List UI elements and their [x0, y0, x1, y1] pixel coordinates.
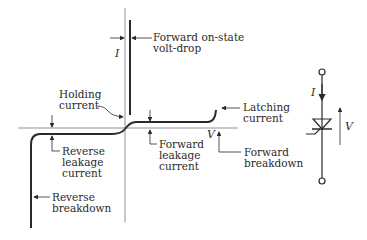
label-line: current [243, 113, 290, 124]
reverse-leakage-leader [52, 147, 60, 151]
reverse-leakage-label: Reverse leakage current [62, 146, 105, 179]
current-axis-label: I [115, 48, 119, 59]
forward-breakdown-leader [219, 150, 241, 152]
forward-breakdown-label: Forward breakdown [244, 147, 303, 169]
symbol-current-label: I [311, 87, 315, 98]
cathode-terminal [319, 178, 325, 184]
forward-leakage-label: Forward leakage current [159, 139, 204, 172]
symbol-voltage-label: V [345, 121, 353, 132]
holding-current-label: Holding current [59, 89, 101, 111]
latching-current-label: Latching current [243, 102, 290, 124]
reverse-breakdown-label: Reverse breakdown [52, 192, 111, 214]
voltage-axis-label: V [207, 129, 215, 140]
label-line: volt-drop [153, 43, 244, 54]
forward-blocking-curve [125, 110, 216, 129]
label-line: current [62, 168, 105, 179]
label-line: breakdown [52, 203, 111, 214]
forward-leakage-leader [150, 142, 157, 144]
label-line: current [159, 161, 204, 172]
forward-on-state-label: Forward on-state volt-drop [153, 32, 244, 54]
anode-terminal [319, 69, 325, 75]
label-line: breakdown [244, 158, 303, 169]
label-line: current [59, 100, 101, 111]
